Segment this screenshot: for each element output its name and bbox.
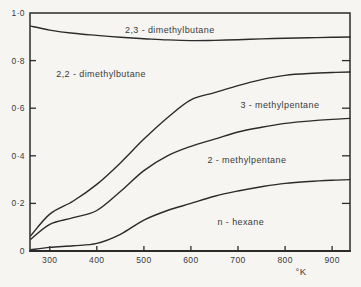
x-tick-label: 500 bbox=[136, 255, 151, 265]
x-tick-label: 400 bbox=[89, 255, 104, 265]
y-tick-label: 0·6 bbox=[12, 103, 26, 113]
x-axis-unit-label: °K bbox=[296, 266, 307, 277]
region-label: 2 - methylpentane bbox=[207, 155, 286, 165]
x-tick-label: 300 bbox=[42, 255, 57, 265]
curve-boundary-below-3-methylpentane-band bbox=[31, 118, 350, 239]
plot-border bbox=[30, 13, 350, 251]
region-label: 3 - methylpentane bbox=[240, 100, 319, 110]
region-label: 2,2 - dimethylbutane bbox=[56, 69, 146, 79]
y-tick-label: 0·8 bbox=[12, 56, 26, 66]
x-tick-label: 800 bbox=[277, 255, 292, 265]
curve-boundary-below-2,2-dimethylbutane-band bbox=[31, 72, 350, 236]
region-label: n - hexane bbox=[218, 217, 265, 227]
region-label: 2,3 - dimethylbutane bbox=[125, 25, 215, 35]
curve-boundary-below-2-methylpentane-band bbox=[31, 180, 350, 250]
y-tick-label: 1·0 bbox=[12, 8, 26, 18]
x-tick-label: 600 bbox=[183, 255, 198, 265]
y-tick-label: 0·4 bbox=[12, 151, 26, 161]
x-tick-label: 900 bbox=[324, 255, 339, 265]
chart-svg: 3004005006007008009001·00·80·60·40·20°K2… bbox=[0, 0, 361, 287]
y-tick-label: 0·2 bbox=[12, 198, 26, 208]
y-tick-label: 0 bbox=[20, 246, 25, 256]
hexane-isomer-equilibrium-figure: 3004005006007008009001·00·80·60·40·20°K2… bbox=[0, 0, 361, 287]
x-tick-label: 700 bbox=[230, 255, 245, 265]
